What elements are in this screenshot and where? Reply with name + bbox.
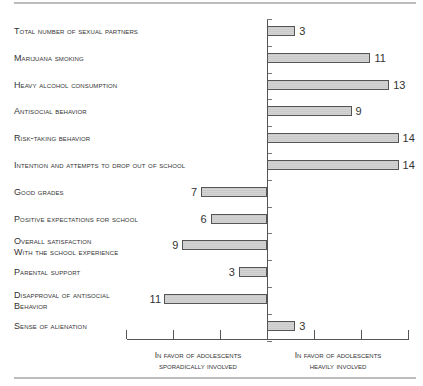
caption-left-line1: In favor of adolescents: [133, 350, 263, 361]
bar: [267, 321, 295, 331]
bar: [182, 240, 267, 250]
x-axis-tick: [408, 330, 409, 339]
bar-value-label: 3: [299, 25, 305, 37]
category-label: Antisocial behavior: [14, 106, 87, 116]
x-axis-tick: [220, 330, 221, 339]
x-axis-tick: [173, 330, 174, 339]
category-label: Good grades: [14, 187, 64, 197]
bar: [267, 160, 399, 170]
bar-value-label: 7: [187, 186, 197, 198]
category-label: Risk-taking behavior: [14, 133, 90, 143]
caption-right-line2: heavily involved: [273, 361, 403, 372]
x-axis-tick: [361, 330, 362, 339]
category-label: Total number of sexual partners: [14, 26, 138, 36]
category-label: Heavy alcohol consumption: [14, 80, 117, 90]
caption-left-line2: sporadically involved: [133, 361, 263, 372]
bar: [267, 26, 295, 36]
bar-value-label: 9: [356, 105, 362, 117]
top-rule: [14, 2, 416, 4]
x-axis-tick: [314, 330, 315, 339]
axis-tick: [267, 341, 272, 342]
bar: [164, 294, 267, 304]
category-label: Overall satisfaction: [14, 236, 91, 246]
bar: [211, 214, 267, 224]
bar-value-label: 9: [168, 239, 178, 251]
category-label: Sense of alienation: [14, 321, 87, 331]
x-axis-tick: [126, 330, 127, 339]
bottom-rule: [14, 377, 416, 379]
caption-right: In favor of adolescents heavily involved: [273, 350, 403, 372]
bar-value-label: 6: [197, 213, 207, 225]
bar-value-label: 14: [403, 159, 415, 171]
category-label: Disapproval of antisocial: [14, 290, 110, 300]
bar-value-label: 13: [393, 79, 405, 91]
caption-right-line1: In favor of adolescents: [273, 350, 403, 361]
x-axis: [127, 339, 409, 340]
bar: [267, 80, 389, 90]
bar-value-label: 3: [225, 266, 235, 278]
bar-value-label: 14: [403, 132, 415, 144]
category-label: Positive expectations for school: [14, 214, 138, 224]
zero-axis: [267, 20, 268, 340]
bar: [267, 53, 370, 63]
bar: [201, 187, 267, 197]
bar: [267, 106, 352, 116]
category-label: Marijuana smoking: [14, 53, 84, 63]
bar-value-label: 11: [150, 293, 160, 305]
caption-left: In favor of adolescents sporadically inv…: [133, 350, 263, 372]
bar: [267, 133, 399, 143]
category-label: Intention and attempts to drop out of sc…: [14, 160, 185, 170]
bar-value-label: 11: [374, 52, 385, 64]
category-label: Parental support: [14, 267, 80, 277]
bar-value-label: 3: [299, 320, 305, 332]
category-label-line2: with the school experience: [14, 247, 118, 257]
bar: [239, 267, 267, 277]
category-label-line2: behavior: [14, 301, 47, 311]
